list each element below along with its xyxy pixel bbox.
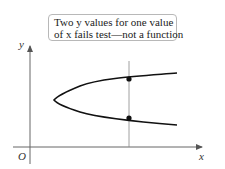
vertical-line-test-diagram: Two y values for one value of x fails te… [0,0,225,169]
x-axis-label: x [199,150,204,162]
y-axis-label: y [19,38,24,50]
origin-label: O [18,150,26,162]
annotation-line-1: Two y values for one value [54,16,176,28]
annotation-line-2: of x fails test—not a function [54,28,176,40]
lower-intersection-point [126,115,131,120]
upper-intersection-point [126,76,131,81]
parabola-curve [54,73,177,125]
annotation-box: Two y values for one value of x fails te… [48,14,177,41]
